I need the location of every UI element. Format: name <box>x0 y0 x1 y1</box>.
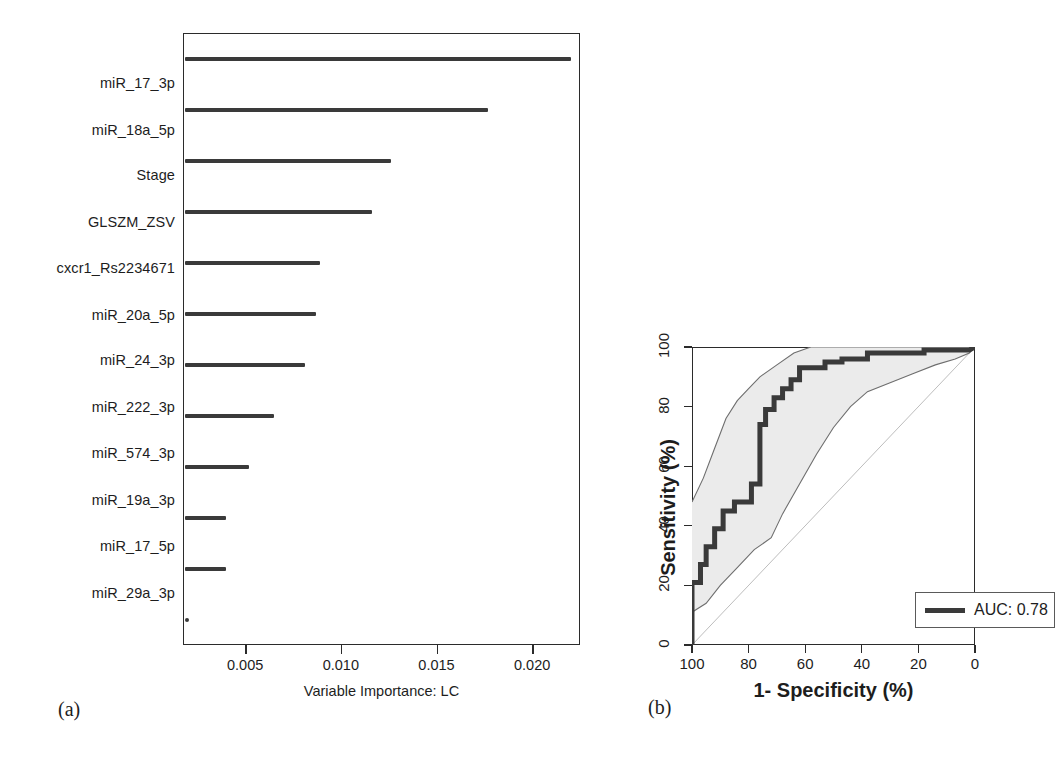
x-axis-tick-label: 80 <box>740 655 757 672</box>
x-axis-tick <box>245 645 246 654</box>
category-label: miR_18a_5p <box>92 122 175 138</box>
category-label: Stage <box>137 167 175 183</box>
variable-importance-bar <box>185 618 189 622</box>
variable-importance-bar <box>185 108 488 112</box>
variable-importance-bar <box>185 363 305 367</box>
panel-b-roc-curve: AUC: 0.78 100806040200 100806040200 Sens… <box>600 0 1023 758</box>
x-axis-tick-label: 60 <box>797 655 814 672</box>
category-label: miR_574_3p <box>92 445 175 461</box>
category-label: miR_20a_5p <box>92 307 175 323</box>
category-label: miR_17_3p <box>100 75 175 91</box>
roc-plot-area: AUC: 0.78 <box>692 347 975 645</box>
x-axis-tick <box>532 645 533 654</box>
x-axis-tick <box>341 645 342 654</box>
category-label: miR_19a_3p <box>92 492 175 508</box>
category-label: cxcr1_Rs2234671 <box>57 260 175 276</box>
x-axis-tick-label: 40 <box>853 655 870 672</box>
variable-importance-bar <box>185 57 571 61</box>
legend-label-auc: AUC: 0.78 <box>974 601 1048 619</box>
x-axis-tick-label: 0.005 <box>227 657 263 673</box>
caption-a: (a) <box>58 698 80 721</box>
x-axis-tick-label: 20 <box>910 655 927 672</box>
variable-importance-category-labels: miR_17_3p miR_18a_5p Stage GLSZM_ZSV cxc… <box>0 33 175 645</box>
variable-importance-bar <box>185 261 320 265</box>
caption-b: (b) <box>648 696 671 719</box>
x-axis-title: 1- Specificity (%) <box>692 679 975 702</box>
x-axis-tick <box>861 645 862 653</box>
plot-frame <box>183 33 580 645</box>
legend-swatch-roc-curve <box>925 608 965 613</box>
y-axis-tick <box>684 585 692 586</box>
variable-importance-bar <box>185 210 372 214</box>
y-axis-tick-label: 100 <box>655 333 672 359</box>
category-label: miR_222_3p <box>92 399 175 415</box>
x-axis-tick <box>691 645 692 653</box>
variable-importance-bar <box>185 465 249 469</box>
x-axis-tick <box>437 645 438 654</box>
x-axis-tick <box>805 645 806 653</box>
x-axis-tick <box>918 645 919 653</box>
x-axis-tick-label: 0.020 <box>514 657 550 673</box>
y-axis-title: Sensitivity (%) <box>657 378 680 638</box>
variable-importance-bar <box>185 414 274 418</box>
x-axis-tick-label: 0.010 <box>323 657 359 673</box>
x-axis-tick-label: 100 <box>679 655 704 672</box>
x-axis-tick-label: 0 <box>971 655 979 672</box>
variable-importance-bar <box>185 312 316 316</box>
y-axis-tick <box>684 466 692 467</box>
roc-legend: AUC: 0.78 <box>915 592 1055 628</box>
category-label: miR_29a_3p <box>92 585 175 601</box>
variable-importance-bar <box>185 567 226 571</box>
y-axis-tick <box>684 525 692 526</box>
panel-a-variable-importance: miR_17_3p miR_18a_5p Stage GLSZM_ZSV cxc… <box>0 0 600 758</box>
y-axis-tick <box>684 346 692 347</box>
variable-importance-bar <box>185 516 226 520</box>
x-axis-tick <box>748 645 749 653</box>
category-label: GLSZM_ZSV <box>88 214 175 230</box>
y-axis-tick <box>684 406 692 407</box>
variable-importance-bar <box>185 159 391 163</box>
x-axis-tick-label: 0.015 <box>418 657 454 673</box>
x-axis-tick <box>974 645 975 653</box>
x-axis-title: Variable Importance: LC <box>183 683 580 699</box>
category-label: miR_24_3p <box>100 352 175 368</box>
category-label: miR_17_5p <box>100 538 175 554</box>
variable-importance-plot-area <box>183 33 580 645</box>
